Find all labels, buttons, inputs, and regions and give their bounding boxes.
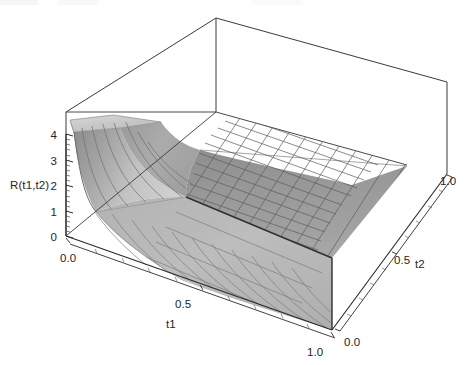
z-tick-3: 3 — [51, 155, 58, 167]
t2-tick-0: 0.0 — [344, 336, 360, 348]
t2-tick-2: 1.0 — [440, 175, 456, 187]
t1-tick-1: 0.5 — [175, 298, 191, 310]
t2-axis-label: t2 — [415, 258, 425, 270]
surface-mesh — [70, 100, 412, 354]
surface-plot-figure: 4 3 2 1 0 R(t1,t2) 0.0 0.5 1.0 t1 0.0 0.… — [0, 0, 466, 365]
plot-canvas: 4 3 2 1 0 R(t1,t2) 0.0 0.5 1.0 t1 0.0 0.… — [0, 0, 466, 365]
z-tick-2: 2 — [51, 180, 58, 192]
t2-tick-1: 0.5 — [394, 254, 410, 266]
z-tick-4: 4 — [51, 129, 58, 141]
z-tick-1: 1 — [51, 206, 58, 218]
t1-tick-2: 1.0 — [307, 346, 323, 358]
z-tick-0: 0 — [51, 231, 58, 243]
z-axis-label: R(t1,t2) — [10, 179, 49, 191]
t1-tick-0: 0.0 — [60, 252, 76, 264]
t1-axis-label: t1 — [166, 318, 176, 330]
